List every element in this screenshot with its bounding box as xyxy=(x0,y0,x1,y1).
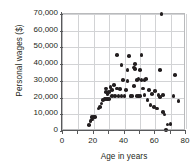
plot-area xyxy=(62,13,185,130)
data-point xyxy=(150,92,154,96)
x-tick-mark-minor xyxy=(170,130,171,134)
data-point xyxy=(143,93,147,97)
data-point xyxy=(126,79,130,83)
data-point xyxy=(138,94,142,98)
data-point xyxy=(155,107,159,111)
data-point xyxy=(173,73,177,77)
data-point xyxy=(120,63,124,67)
gridline-vertical-minor xyxy=(78,14,79,129)
data-point xyxy=(127,54,131,58)
x-tick-mark-minor xyxy=(77,130,78,134)
gridline-horizontal xyxy=(63,98,184,99)
data-point xyxy=(153,89,157,93)
gridline-vertical-minor xyxy=(109,14,110,129)
y-tick-label: 0 xyxy=(14,126,58,134)
gridline-vertical xyxy=(125,14,126,129)
y-tick-label: 10,000 xyxy=(14,109,58,117)
x-tick-label: 80 xyxy=(174,137,192,145)
gridline-vertical xyxy=(94,14,95,129)
data-point xyxy=(169,122,173,126)
data-point xyxy=(133,62,137,66)
data-point xyxy=(100,102,104,106)
gridline-vertical xyxy=(186,14,187,129)
data-point xyxy=(141,87,145,91)
x-tick-label: 40 xyxy=(113,137,135,145)
data-point xyxy=(177,99,181,103)
x-axis-tick-labels: 020406080 xyxy=(0,137,192,149)
gridline-horizontal xyxy=(63,14,184,15)
x-tick-mark-minor xyxy=(139,130,140,134)
data-point xyxy=(133,67,137,71)
data-point xyxy=(161,93,165,97)
gridline-vertical xyxy=(155,14,156,129)
data-point xyxy=(118,87,122,91)
data-point xyxy=(163,113,167,117)
x-tick-mark xyxy=(62,130,63,134)
data-point xyxy=(146,98,150,102)
data-point xyxy=(98,105,102,109)
data-point xyxy=(140,53,144,57)
x-axis-line xyxy=(61,130,186,131)
y-tick-label: 70,000 xyxy=(14,9,58,17)
y-tick-label: 20,000 xyxy=(14,93,58,101)
data-point xyxy=(126,68,130,72)
x-tick-mark xyxy=(93,130,94,134)
y-axis-line xyxy=(61,12,62,131)
y-tick-label: 60,000 xyxy=(14,26,58,34)
x-tick-mark xyxy=(124,130,125,134)
y-tick-label: 50,000 xyxy=(14,42,58,50)
gridline-vertical-minor xyxy=(171,14,172,129)
data-point xyxy=(138,68,142,72)
data-point xyxy=(121,78,125,82)
data-point xyxy=(124,88,128,92)
data-point xyxy=(160,12,164,16)
data-point xyxy=(115,53,119,57)
x-tick-mark xyxy=(154,130,155,134)
data-point xyxy=(147,88,151,92)
x-tick-mark-minor xyxy=(108,130,109,134)
data-point xyxy=(132,84,136,88)
gridline-horizontal xyxy=(63,31,184,32)
gridline-horizontal xyxy=(63,64,184,65)
y-tick-label: 30,000 xyxy=(14,76,58,84)
y-tick-label: 40,000 xyxy=(14,59,58,67)
x-tick-label: 60 xyxy=(143,137,165,145)
x-tick-label: 20 xyxy=(82,137,104,145)
data-point xyxy=(144,77,148,81)
scatter-plot-figure: Personal wages ($) 010,00020,00030,00040… xyxy=(0,0,192,167)
data-point xyxy=(130,94,134,98)
x-tick-label: 0 xyxy=(51,137,73,145)
data-point xyxy=(93,115,97,119)
x-tick-mark xyxy=(185,130,186,134)
data-point xyxy=(158,68,162,72)
x-axis-title: Age in years xyxy=(62,152,186,161)
data-point xyxy=(123,94,127,98)
data-point xyxy=(110,88,114,92)
data-point xyxy=(87,123,91,127)
gridline-horizontal xyxy=(63,47,184,48)
